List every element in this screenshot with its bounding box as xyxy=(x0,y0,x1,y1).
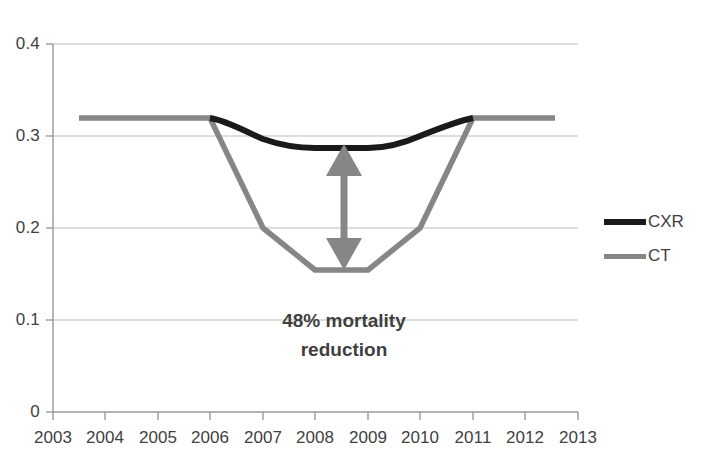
chart-figure: 0.4 0.3 0.2 0.1 0 2003 2004 2005 2006 20… xyxy=(0,0,708,463)
chart-legend: CXR CT xyxy=(604,205,708,273)
x-axis-ticks xyxy=(53,412,578,420)
legend-item-cxr[interactable]: CXR xyxy=(604,205,708,239)
series-line-ct xyxy=(79,118,555,270)
y-axis-ticks xyxy=(46,44,53,412)
x-tick-label: 2006 xyxy=(184,428,236,448)
legend-label-cxr: CXR xyxy=(648,212,684,232)
annotation-line-2: reduction xyxy=(246,337,442,364)
mortality-reduction-arrow xyxy=(326,144,362,270)
legend-swatch-cxr-icon xyxy=(604,219,646,225)
y-tick-label: 0.1 xyxy=(0,310,40,330)
x-tick-label: 2009 xyxy=(342,428,394,448)
x-tick-label: 2010 xyxy=(394,428,446,448)
annotation-line-1: 48% mortality xyxy=(246,308,442,335)
x-tick-label: 2004 xyxy=(79,428,131,448)
y-tick-label: 0 xyxy=(0,402,40,422)
legend-item-ct[interactable]: CT xyxy=(604,239,708,273)
x-tick-label: 2012 xyxy=(499,428,551,448)
x-tick-label: 2011 xyxy=(447,428,499,448)
gridlines xyxy=(53,44,578,320)
y-tick-label: 0.2 xyxy=(0,218,40,238)
y-tick-label: 0.3 xyxy=(0,126,40,146)
x-tick-label: 2005 xyxy=(132,428,184,448)
series-line-cxr xyxy=(210,118,473,148)
x-tick-label: 2008 xyxy=(289,428,341,448)
chart-plot-area xyxy=(0,0,708,463)
legend-label-ct: CT xyxy=(648,246,671,266)
legend-swatch-ct-icon xyxy=(604,254,646,259)
x-tick-label: 2013 xyxy=(552,428,604,448)
y-tick-label: 0.4 xyxy=(0,34,40,54)
x-tick-label: 2007 xyxy=(237,428,289,448)
x-tick-label: 2003 xyxy=(27,428,79,448)
